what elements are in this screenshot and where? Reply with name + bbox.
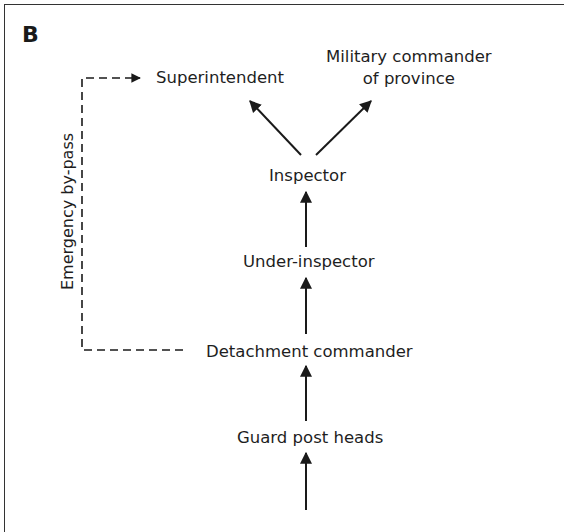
- arrow-inspector-to-superintendent: [250, 101, 301, 155]
- emergency-bypass-path: [82, 78, 183, 350]
- diagram-arrows: [0, 0, 564, 532]
- arrow-inspector-to-military-commander: [316, 101, 371, 155]
